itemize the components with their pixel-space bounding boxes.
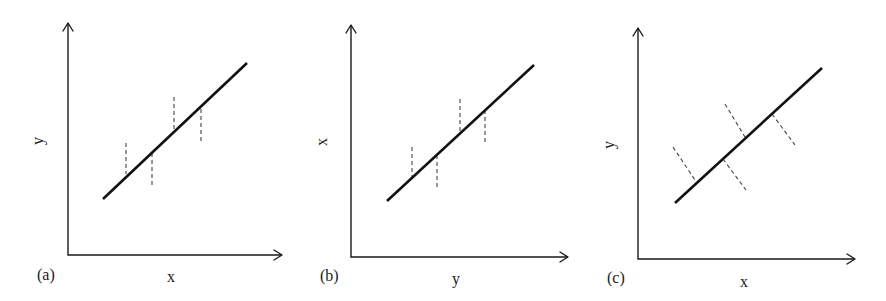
panel-label: (c) [607,269,625,287]
regression-line [387,65,534,201]
regression-figure: (a)xy(b)yx(c)xy [0,0,886,301]
panel-label: (b) [320,267,339,285]
axes [351,25,568,257]
axes [68,23,282,255]
y-axis-label: y [600,141,618,149]
axes [638,28,855,259]
panel-a: (a)xy [29,23,282,285]
y-axis-label: x [313,138,330,146]
residual-segment [772,114,795,145]
x-axis-label: y [452,270,460,288]
residual-segment [725,104,745,137]
regression-line [675,68,822,203]
panel-b: (b)yx [313,25,568,288]
x-axis-label: x [167,268,175,285]
y-axis-label: y [29,137,47,145]
x-axis-label: x [740,273,748,290]
regression-line [103,63,247,199]
residual-segment [673,147,697,183]
panel-c: (c)xy [600,28,855,290]
residual-segment [723,159,746,190]
panel-label: (a) [37,266,55,284]
